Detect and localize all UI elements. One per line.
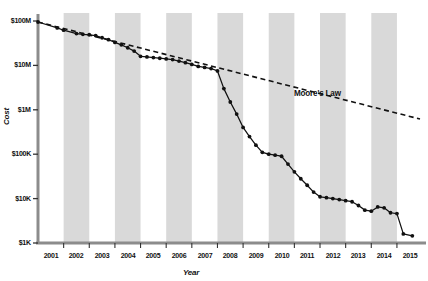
x-tick-label: 2007 xyxy=(191,251,217,260)
x-tick-label: 2014 xyxy=(371,251,397,260)
x-tick-label: 2013 xyxy=(345,251,371,260)
x-tick-label: 2010 xyxy=(268,251,294,260)
y-tick-label: $1K xyxy=(19,238,31,247)
y-tick-label: $100K xyxy=(12,149,31,158)
x-tick-label: 2003 xyxy=(89,251,115,260)
x-tick-label: 2001 xyxy=(38,251,64,260)
x-tick-label: 2015 xyxy=(397,251,423,260)
y-tick-label: $10K xyxy=(15,194,31,203)
x-tick-label: 2011 xyxy=(294,251,320,260)
y-tick-label: $10M xyxy=(14,60,31,69)
x-tick-label: 2009 xyxy=(243,251,269,260)
y-tick-label: $1M xyxy=(18,105,31,114)
chart-canvas xyxy=(0,0,428,281)
x-tick-label: 2004 xyxy=(115,251,141,260)
y-tick-label: $100M xyxy=(11,16,31,25)
cost-per-genome-chart: $100M$10M$1M$100K$10K$1K 200120022003200… xyxy=(0,0,428,281)
x-tick-label: 2005 xyxy=(140,251,166,260)
moores-law-annotation: Moore's Law xyxy=(294,88,341,98)
x-tick-label: 2012 xyxy=(320,251,346,260)
x-tick-label: 2006 xyxy=(166,251,192,260)
x-axis-title: Year xyxy=(183,268,199,277)
x-tick-label: 2008 xyxy=(217,251,243,260)
year-bands xyxy=(64,13,397,243)
y-axis-title: Cost xyxy=(2,108,11,125)
x-tick-label: 2002 xyxy=(63,251,89,260)
